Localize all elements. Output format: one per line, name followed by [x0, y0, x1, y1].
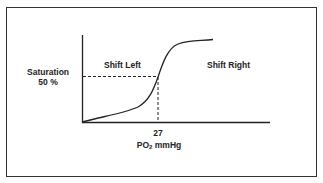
y-axis-label-line1: Saturation [22, 67, 74, 77]
x-axis-label: PO2 mmHg [128, 140, 190, 152]
dissociation-curve-plot [0, 0, 323, 183]
x-axis-label-suffix: mmHg [152, 140, 181, 150]
sigmoid-curve [82, 40, 213, 123]
x-axis-label-prefix: PO [137, 140, 149, 150]
y-axis-label: Saturation 50 % [22, 67, 74, 87]
x-tick-label: 27 [148, 128, 168, 138]
shift-left-label: Shift Left [104, 60, 141, 70]
y-axis-label-line2: 50 % [22, 77, 74, 87]
shift-right-label: Shift Right [207, 60, 250, 70]
